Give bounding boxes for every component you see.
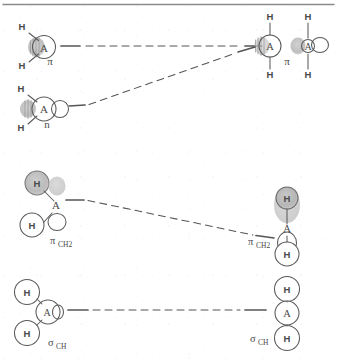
connector-n bbox=[69, 47, 255, 106]
orbital-lobe-open bbox=[48, 214, 66, 231]
atom-label-A: A bbox=[40, 42, 48, 54]
pi-ch2-left-structure: H A H π CH2 bbox=[20, 171, 72, 249]
orbital-label-sigma-ch: σ bbox=[250, 333, 256, 344]
connector-pi-ch2 bbox=[66, 200, 274, 238]
atom-label-A: A bbox=[283, 308, 291, 319]
orbital-label-pi-ch2: π bbox=[248, 236, 254, 247]
atom-label-H: H bbox=[18, 83, 25, 94]
diagram-canvas: A H H π A H H π bbox=[0, 0, 337, 362]
atom-label-H: H bbox=[267, 11, 274, 22]
atom-label-A: A bbox=[43, 307, 51, 318]
atom-label-H: H bbox=[29, 220, 36, 231]
atom-label-H: H bbox=[18, 122, 25, 133]
atom-label-H: H bbox=[305, 11, 312, 22]
orbital-lobe-small bbox=[53, 305, 64, 319]
atom-label-H: H bbox=[305, 69, 312, 80]
atom-label-H: H bbox=[284, 193, 291, 204]
atom-label-H: H bbox=[284, 284, 291, 295]
orbital-lobe bbox=[52, 101, 69, 118]
orbital-label-pi: π bbox=[47, 55, 53, 67]
pi-right-structure-1: A H H π bbox=[255, 11, 291, 80]
pi-right-structure-2: A H H bbox=[291, 11, 329, 80]
orbital-label-pi-ch2: π bbox=[50, 235, 56, 246]
n-left-structure: A H H n bbox=[18, 83, 69, 133]
atom-label-H: H bbox=[24, 328, 31, 339]
orbital-label-sigma-ch-sub: CH bbox=[258, 338, 269, 347]
atom-label-A: A bbox=[40, 103, 48, 115]
orbital-label-pi: π bbox=[284, 55, 290, 67]
pi-left-structure: A H H π bbox=[19, 21, 56, 71]
atom-label-H: H bbox=[19, 21, 26, 32]
atom-label-A: A bbox=[266, 41, 274, 52]
orbital-label-sigma-ch-sub: CH bbox=[56, 342, 67, 351]
pi-ch2-right-structure: H A H π CH2 bbox=[248, 187, 300, 266]
atom-label-H: H bbox=[34, 178, 41, 189]
atom-label-H: H bbox=[24, 287, 31, 298]
atom-label-H: H bbox=[284, 249, 291, 260]
atom-label-H: H bbox=[267, 69, 274, 80]
atom-label-A: A bbox=[52, 199, 60, 211]
sigma-ch-left-structure: H H A σ CH bbox=[15, 280, 68, 352]
sigma-ch-right-structure: H A H σ CH bbox=[250, 277, 300, 351]
orbital-label-sigma-ch: σ bbox=[48, 337, 54, 348]
orbital-label-n: n bbox=[44, 118, 50, 130]
orbital-label-pi-ch2-sub: CH2 bbox=[58, 240, 72, 249]
atom-label-H: H bbox=[284, 333, 291, 344]
atom-label-A: A bbox=[304, 41, 312, 52]
orbital-label-pi-ch2-sub: CH2 bbox=[256, 241, 270, 250]
atom-label-H: H bbox=[19, 60, 26, 71]
